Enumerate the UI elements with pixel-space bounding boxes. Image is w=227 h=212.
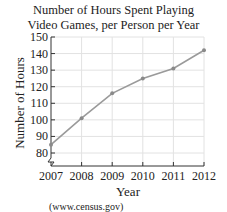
data-point bbox=[110, 91, 114, 95]
y-tick-label: 140 bbox=[30, 47, 48, 61]
y-axis-label: Number of Hours bbox=[12, 57, 27, 149]
y-tick-label: 80 bbox=[36, 146, 48, 160]
x-tick-label: 2010 bbox=[131, 169, 155, 183]
gridlines bbox=[51, 37, 204, 166]
y-tick-label: 120 bbox=[30, 80, 48, 94]
y-tick-label: 100 bbox=[30, 113, 48, 127]
axes bbox=[48, 37, 204, 166]
source-note: (www.census.gov) bbox=[49, 201, 123, 212]
data-point bbox=[49, 143, 53, 147]
x-tick-label: 2011 bbox=[162, 169, 186, 183]
x-axis-ticks: 200720082009201020112012 bbox=[39, 162, 216, 183]
x-tick-label: 2009 bbox=[100, 169, 124, 183]
data-point bbox=[171, 66, 175, 70]
data-point bbox=[141, 76, 145, 80]
data-series bbox=[49, 48, 206, 146]
x-tick-label: 2012 bbox=[192, 169, 216, 183]
data-point bbox=[202, 48, 206, 52]
x-tick-label: 2008 bbox=[70, 169, 94, 183]
data-point bbox=[80, 116, 84, 120]
series-line bbox=[51, 50, 204, 144]
y-tick-label: 150 bbox=[30, 30, 48, 44]
y-tick-label: 110 bbox=[30, 96, 48, 110]
x-tick-label: 2007 bbox=[39, 169, 63, 183]
line-chart: 8090100110120130140150 20072008200920102… bbox=[0, 0, 227, 212]
x-axis-label: Year bbox=[116, 184, 141, 199]
y-tick-label: 130 bbox=[30, 63, 48, 77]
y-tick-label: 90 bbox=[36, 129, 48, 143]
